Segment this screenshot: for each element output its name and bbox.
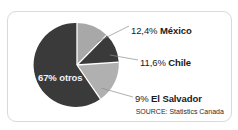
pie-label-chile-name: Chile — [168, 57, 191, 68]
pie-label-chile: 11,6% Chile — [140, 57, 191, 68]
pie-label-otros: 67% otros — [38, 72, 83, 83]
pie-label-el-salvador-name: El Salvador — [151, 93, 202, 104]
pie-label-el-salvador: 9% El Salvador — [135, 93, 202, 104]
pie-label-el-salvador-percent: 9% — [135, 93, 149, 104]
pie-label-mexico: 12,4% México — [131, 25, 192, 36]
pie-label-mexico-name: México — [160, 25, 192, 36]
pie-label-mexico-percent: 12,4% — [131, 25, 157, 36]
pie-label-chile-percent: 11,6% — [140, 57, 166, 68]
pie-chart-infographic: 12,4% México 11,6% Chile 9% El Salvador … — [0, 0, 238, 130]
source-attribution: SOURCE: Statistics Canada — [136, 107, 224, 116]
